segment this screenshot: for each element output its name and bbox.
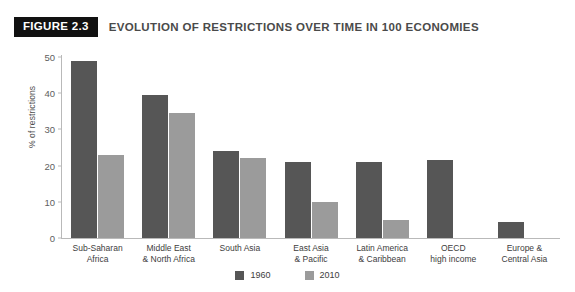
- legend-square-swatch: [235, 271, 244, 280]
- figure-container: FIGURE 2.3 EVOLUTION OF RESTRICTIONS OVE…: [0, 0, 575, 292]
- x-axis-label: South Asia: [220, 243, 261, 254]
- legend-item[interactable]: 2010: [305, 270, 340, 280]
- legend-square-swatch: [305, 271, 314, 280]
- legend-label: 2010: [320, 270, 340, 280]
- chart-legend: 19602010: [0, 270, 575, 280]
- y-tick-label: 40: [44, 88, 62, 99]
- figure-header: FIGURE 2.3 EVOLUTION OF RESTRICTIONS OVE…: [14, 17, 479, 37]
- plot-area: 01020304050: [62, 57, 560, 238]
- x-axis-label-line: & Pacific: [293, 254, 328, 265]
- x-axis-label: East Asia& Pacific: [293, 243, 328, 264]
- legend-item[interactable]: 1960: [235, 270, 270, 280]
- x-axis-label-line: & North Africa: [142, 254, 194, 265]
- x-axis-label-line: Sub-Saharan: [73, 243, 123, 254]
- figure-title: EVOLUTION OF RESTRICTIONS OVER TIME IN 1…: [109, 21, 479, 33]
- y-tick-label: 30: [44, 124, 62, 135]
- x-axis-label-line: & Caribbean: [356, 254, 408, 265]
- y-tick-label: 50: [44, 52, 62, 63]
- x-axis-label-line: Latin America: [356, 243, 408, 254]
- x-axis-label: Europe &Central Asia: [502, 243, 548, 264]
- x-axis-line: [61, 238, 560, 239]
- x-axis-label-line: Central Asia: [502, 254, 548, 265]
- y-axis-title: % of restrictions: [27, 86, 37, 148]
- x-axis-label: Latin America& Caribbean: [356, 243, 408, 264]
- x-axis-label-line: Europe &: [502, 243, 548, 254]
- bar-group: [62, 57, 560, 238]
- y-tick-label: 10: [44, 196, 62, 207]
- x-axis-label-line: Africa: [73, 254, 123, 265]
- legend-label: 1960: [250, 270, 270, 280]
- y-tick-label: 0: [50, 233, 62, 244]
- x-axis-label: Sub-SaharanAfrica: [73, 243, 123, 264]
- x-axis-label-line: high income: [430, 254, 476, 265]
- x-axis-label: Middle East& North Africa: [142, 243, 194, 264]
- x-axis-label-line: Middle East: [142, 243, 194, 254]
- y-tick-label: 20: [44, 160, 62, 171]
- x-axis-label: OECDhigh income: [430, 243, 476, 264]
- figure-number-badge: FIGURE 2.3: [14, 17, 98, 37]
- x-axis-label-line: East Asia: [293, 243, 328, 254]
- x-axis-label-line: South Asia: [220, 243, 261, 254]
- x-axis-label-line: OECD: [430, 243, 476, 254]
- bar-1960: [498, 222, 524, 238]
